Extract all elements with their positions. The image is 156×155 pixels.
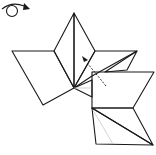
lower-white-flap (92, 108, 153, 145)
right-gray-panel (92, 72, 154, 108)
top-point-left (54, 13, 74, 88)
fold-arrow-icon (82, 56, 106, 86)
right-white-flap (105, 51, 137, 72)
origami-diagram (0, 0, 156, 155)
left-flap (12, 51, 74, 105)
turn-over-icon (2, 3, 30, 17)
